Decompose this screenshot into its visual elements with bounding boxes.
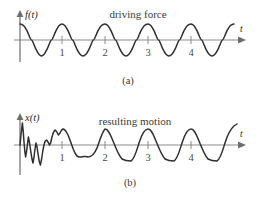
panel-a-title: driving force [109,8,166,20]
tick-label-b-3: 3 [145,152,150,163]
panel-a-plot: 1 2 3 4 f(t) t driving force (a) [0,0,264,100]
panel-b-title: resulting motion [99,115,172,127]
panel-a-caption: (a) [122,75,134,87]
x-axis-label-a: t [240,24,243,34]
tick-label-a-3: 3 [145,47,150,58]
y-axis-label-b: x(t) [24,112,40,124]
tick-label-b-1: 1 [59,152,64,163]
panel-driving-force: 1 2 3 4 f(t) t driving force (a) [0,0,264,100]
y-axis-label-a: f(t) [25,9,38,21]
oscillator-figure: 1 2 3 4 f(t) t driving force (a) [0,0,264,199]
x-axis-arrow-a [238,36,246,43]
tick-label-b-4: 4 [188,152,194,163]
y-axis-arrow-a [17,10,24,17]
tick-label-a-2: 2 [102,47,107,58]
tick-label-a-4: 4 [188,47,194,58]
panel-b-plot: 1 2 3 4 x(t) t resulting motion (b) [0,99,264,199]
x-axis-arrow-b [238,141,246,148]
tick-label-b-2: 2 [102,152,107,163]
y-axis-arrow-b [17,113,24,120]
panel-b-caption: (b) [124,177,137,189]
tick-label-a-1: 1 [59,47,64,58]
resulting-motion-curve [20,123,237,165]
x-axis-label-b: t [240,129,243,139]
panel-resulting-motion: 1 2 3 4 x(t) t resulting motion (b) [0,99,264,199]
